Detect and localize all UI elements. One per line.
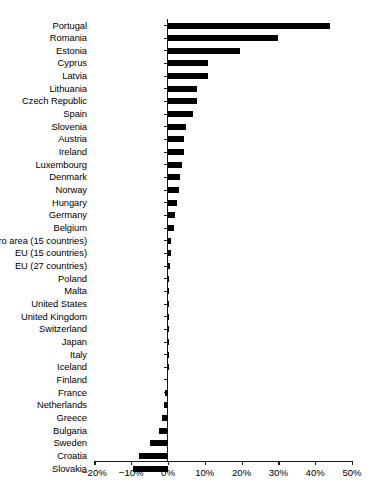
category-label: Iceland (57, 361, 87, 373)
bar-row: Iceland (0, 361, 376, 373)
bar-row: Ireland (0, 146, 376, 158)
bar (168, 225, 174, 231)
category-label: France (58, 387, 87, 399)
bar-row: United States (0, 298, 376, 310)
bar (168, 98, 197, 104)
bar (168, 276, 169, 282)
category-label: Italy (70, 349, 87, 361)
x-axis-tick-label: 10% (185, 467, 225, 478)
bar-row: Bulgaria (0, 425, 376, 437)
bar (168, 187, 179, 193)
x-axis-tick-label: 40% (295, 467, 335, 478)
bar (168, 23, 330, 29)
bar-row: Czech Republic (0, 95, 376, 107)
category-label: Sweden (53, 437, 87, 449)
category-label: Austria (58, 133, 87, 145)
category-label: Poland (58, 273, 87, 285)
bar-row: Japan (0, 336, 376, 348)
bar-row: Latvia (0, 70, 376, 82)
category-label: Denmark (49, 171, 87, 183)
bar (168, 238, 171, 244)
bar-row: Italy (0, 349, 376, 361)
category-label: Switzerland (39, 323, 87, 335)
bar-row: Germany (0, 209, 376, 221)
category-label: Croatia (57, 450, 87, 462)
category-label: Germany (49, 209, 87, 221)
category-label: Lithuania (49, 83, 87, 95)
bar (168, 60, 208, 66)
category-label: Estonia (56, 45, 87, 57)
bar (168, 48, 240, 54)
category-label: Slovenia (51, 121, 87, 133)
category-label: Bulgaria (53, 425, 87, 437)
bar (168, 174, 180, 180)
bar (162, 415, 168, 421)
x-axis-tick-label: 30% (258, 467, 298, 478)
bar (168, 339, 169, 345)
x-axis-tick (242, 461, 243, 465)
bar (168, 250, 171, 256)
category-label: Finland (57, 374, 87, 386)
bar-row: Euro area (15 countries) (0, 235, 376, 247)
bar-row: Greece (0, 412, 376, 424)
bar (168, 111, 193, 117)
bar (168, 288, 169, 294)
category-label: Romania (50, 32, 87, 44)
x-axis-tick (131, 461, 132, 465)
category-label: Norway (56, 184, 87, 196)
category-label: Cyprus (58, 57, 87, 69)
bar (168, 263, 170, 269)
category-label: Belgium (53, 222, 87, 234)
bar-row: Austria (0, 133, 376, 145)
bar-row: Slovenia (0, 121, 376, 133)
bar-row: Sweden (0, 437, 376, 449)
x-axis-tick-label: 20% (222, 467, 262, 478)
plot-area: PortugalRomaniaEstoniaCyprusLatviaLithua… (0, 0, 376, 489)
bar (168, 326, 169, 332)
category-label: United Kingdom (21, 311, 87, 323)
bar (139, 453, 168, 459)
bar (168, 212, 175, 218)
bar-row: EU (15 countries) (0, 247, 376, 259)
bar (168, 364, 169, 370)
bar (164, 402, 168, 408)
x-axis-tick (278, 461, 279, 465)
bar (168, 314, 169, 320)
bar (168, 352, 169, 358)
bar-row: Norway (0, 184, 376, 196)
bar-row: Luxembourg (0, 159, 376, 171)
x-axis-tick (352, 461, 353, 465)
category-label: Ireland (59, 146, 87, 158)
bar (150, 440, 168, 446)
bar-row: Cyprus (0, 57, 376, 69)
category-label: Hungary (52, 197, 87, 209)
category-label: EU (15 countries) (15, 247, 87, 259)
bar-row: Romania (0, 32, 376, 44)
category-label: Malta (64, 285, 87, 297)
bar (168, 162, 182, 168)
bar-row: Portugal (0, 20, 376, 32)
bar-row: Malta (0, 285, 376, 297)
category-label: Japan (62, 336, 87, 348)
bar (168, 200, 177, 206)
bar (167, 377, 168, 383)
category-label: Czech Republic (22, 95, 87, 107)
bar-row: Denmark (0, 171, 376, 183)
bar (168, 86, 197, 92)
bar (168, 124, 186, 130)
bar-row: Spain (0, 108, 376, 120)
category-label: Spain (63, 108, 87, 120)
bar-row: Lithuania (0, 83, 376, 95)
bar-row: Poland (0, 273, 376, 285)
bar-row: Estonia (0, 45, 376, 57)
x-axis-tick (94, 461, 95, 465)
category-label: Euro area (15 countries) (0, 235, 87, 247)
category-label: EU (27 countries) (15, 260, 87, 272)
bar-row: Belgium (0, 222, 376, 234)
category-label: Greece (57, 412, 87, 424)
x-axis-tick-label: 50% (332, 467, 372, 478)
x-axis-tick-label: −20% (74, 467, 114, 478)
bar-row: Finland (0, 374, 376, 386)
category-label: Latvia (62, 70, 87, 82)
category-label: Netherlands (37, 399, 87, 411)
